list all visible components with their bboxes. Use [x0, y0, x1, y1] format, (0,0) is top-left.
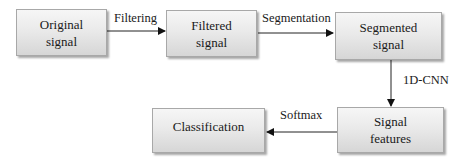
node-text-line2: signal: [191, 34, 231, 51]
edge-label-filtering: Filtering: [114, 11, 157, 25]
edge-label-softmax: Softmax: [280, 108, 322, 122]
node-text-line1: Original: [40, 16, 83, 33]
node-text-line2: signal: [360, 36, 418, 53]
node-text-line1: Segmented: [360, 19, 418, 36]
node-original-signal: Original signal: [16, 9, 107, 56]
node-segmented-signal: Segmented signal: [335, 12, 442, 60]
node-filtered-signal: Filtered signal: [166, 10, 257, 57]
node-text-line1: Filtered: [191, 17, 231, 34]
node-text-line1: Classification: [173, 118, 245, 135]
node-text-line2: features: [370, 130, 411, 147]
node-text-line2: signal: [40, 33, 83, 50]
edge-label-segmentation: Segmentation: [262, 11, 331, 25]
node-signal-features: Signal features: [337, 107, 444, 153]
node-text-line1: Signal: [370, 113, 411, 130]
node-classification: Classification: [152, 108, 265, 153]
edge-label-1d-cnn: 1D-CNN: [403, 73, 449, 87]
